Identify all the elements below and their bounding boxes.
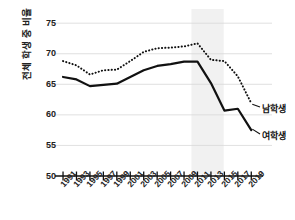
chart-container: 전체 학생 중 비율 757065605550 1991199319951997… [0,0,295,220]
series-label-male: 남학생 [262,104,286,114]
x-axis-tick-labels: 1991199319951997199920012003200520072009… [0,0,295,220]
series-label-female: 여학생 [262,131,286,141]
